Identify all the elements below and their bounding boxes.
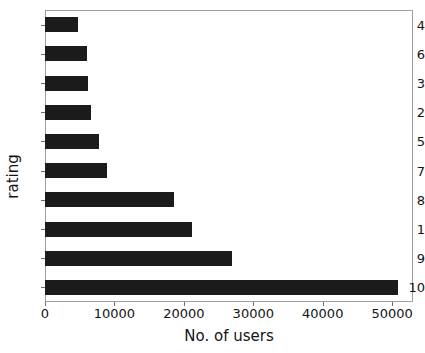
bar-rating-7 [45,163,107,178]
y-tick-label-7: 7 [391,164,425,177]
y-tick-label-1: 1 [391,223,425,236]
y-tick-label-5: 5 [391,135,425,148]
bar-rating-5 [45,134,99,149]
bar-rating-1 [45,222,192,237]
bar-rating-10 [45,280,398,295]
x-tick-label-0: 0 [41,306,49,321]
x-tick-label-40000: 40000 [302,306,343,321]
bar-rating-3 [45,76,88,91]
x-tick-label-50000: 50000 [371,306,412,321]
y-tick-label-3: 3 [391,77,425,90]
bar-rating-6 [45,46,87,61]
x-tick-label-30000: 30000 [233,306,274,321]
bar-rating-8 [45,192,174,207]
x-axis-label: No. of users [45,327,413,345]
bar-rating-2 [45,105,91,120]
y-axis-label: rating [0,0,26,353]
x-tick-label-20000: 20000 [163,306,204,321]
chart-figure: rating 46325781910 010000200003000040000… [0,0,425,353]
bar-rating-4 [45,17,78,32]
y-tick-label-4: 4 [391,18,425,31]
y-tick-label-2: 2 [391,106,425,119]
y-tick-label-8: 8 [391,193,425,206]
bar-rating-9 [45,251,232,266]
y-tick-label-6: 6 [391,47,425,60]
y-tick-label-9: 9 [391,252,425,265]
x-tick-label-10000: 10000 [94,306,135,321]
